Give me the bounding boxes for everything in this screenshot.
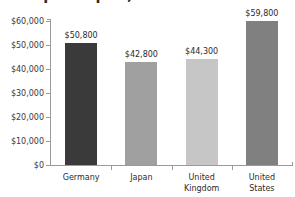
y-axis-tick-label: $10,000	[11, 137, 44, 146]
x-axis-category-label-line: Japan	[130, 172, 152, 183]
x-axis-tick	[232, 165, 233, 170]
bar	[246, 21, 278, 165]
bar	[186, 59, 218, 165]
chart-title: GDP per Capita, 201	[4, 0, 167, 3]
x-axis-category-label: Germany	[63, 172, 100, 183]
x-axis-category-label: Japan	[130, 172, 152, 183]
x-axis-category-label-line: Kingdom	[184, 183, 219, 194]
bar-chart: GDP per Capita, 201 $0$10,000$20,000$30,…	[0, 0, 295, 197]
x-axis-category-label-line: States	[249, 183, 275, 194]
y-axis-tick-label: $0	[34, 161, 44, 170]
y-axis-tick-label: $50,000	[11, 41, 44, 50]
x-axis-category-label-line: Germany	[63, 172, 100, 183]
y-axis-tick-label: $60,000	[11, 17, 44, 26]
bar-value-label: $44,300	[185, 47, 218, 56]
x-axis-tick	[172, 165, 173, 170]
x-axis-right-cap	[292, 162, 293, 166]
bar-value-label: $50,800	[65, 31, 98, 40]
bar	[65, 43, 97, 165]
bar-value-label: $59,800	[245, 9, 278, 18]
x-axis-category-label: UnitedKingdom	[184, 172, 219, 194]
y-axis-tick-label: $40,000	[11, 65, 44, 74]
y-axis-tick	[46, 165, 51, 166]
x-axis-category-label-line: United	[249, 172, 275, 183]
bar-value-label: $42,800	[125, 50, 158, 59]
x-axis-tick	[111, 165, 112, 170]
y-axis-tick-label: $30,000	[11, 89, 44, 98]
x-axis-category-label-line: United	[184, 172, 219, 183]
bar	[125, 62, 157, 165]
x-axis-category-label: UnitedStates	[249, 172, 275, 194]
y-axis-tick-label: $20,000	[11, 113, 44, 122]
